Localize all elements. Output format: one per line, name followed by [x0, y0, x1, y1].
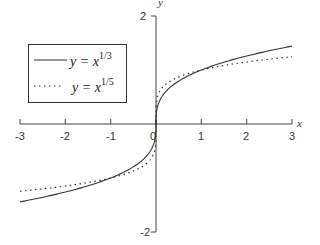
x-tick-label: -2 — [60, 130, 70, 142]
x-tick-label: -1 — [106, 130, 116, 142]
y-axis-name: y — [157, 0, 163, 8]
legend: y = x1/3 y = x1/5 — [29, 45, 127, 103]
x-tick-label: -3 — [15, 130, 25, 142]
y-tick-label-bottom: -2 — [140, 226, 150, 238]
chart-canvas: -3 -2 -1 0 1 2 3 2 -2 y x y = x1/3 y = x… — [0, 0, 320, 245]
x-axis-name: x — [296, 117, 302, 129]
x-tick-label: 3 — [289, 130, 295, 142]
y-tick-label-top: 2 — [140, 10, 146, 22]
x-tick-label: 1 — [198, 130, 204, 142]
x-tick-label: 2 — [243, 130, 249, 142]
